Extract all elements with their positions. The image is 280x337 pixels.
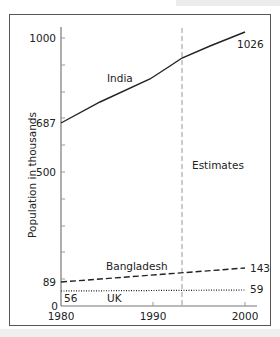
uk-line bbox=[61, 290, 245, 291]
y-tick-label-1000: 1000 bbox=[29, 32, 56, 44]
india-line bbox=[61, 32, 245, 123]
bangladesh-label: Bangladesh bbox=[106, 260, 168, 272]
uk-label: UK bbox=[107, 292, 123, 304]
y-tick-label-687: 687 bbox=[36, 117, 56, 129]
y-axis-title: Population in thousands bbox=[26, 112, 38, 238]
population-chart: 1000 687 500 89 0 Population in thousand… bbox=[0, 0, 280, 337]
x-tick-label-2000: 2000 bbox=[232, 310, 259, 322]
x-tick-label-1980: 1980 bbox=[48, 310, 75, 322]
y-tick-label-500: 500 bbox=[36, 166, 56, 178]
y-tick-label-89: 89 bbox=[43, 276, 56, 288]
x-tick-label-1990: 1990 bbox=[140, 310, 167, 322]
india-end-value: 1026 bbox=[237, 38, 264, 50]
uk-start-value: 56 bbox=[64, 292, 78, 304]
india-label: India bbox=[107, 72, 133, 84]
uk-end-value: 59 bbox=[250, 283, 263, 295]
estimates-label: Estimates bbox=[192, 159, 244, 171]
bangladesh-end-value: 143 bbox=[250, 262, 270, 274]
